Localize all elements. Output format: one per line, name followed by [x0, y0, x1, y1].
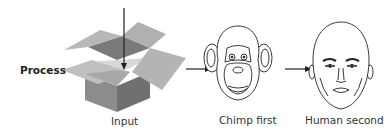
human-face-icon [309, 22, 373, 109]
chimp-face-icon [204, 26, 272, 100]
chimp-first-label: Chimp first [219, 114, 277, 126]
right-arrow-icon [285, 66, 312, 72]
human-second-label: Human second [305, 114, 384, 126]
process-label: Process [20, 64, 66, 76]
input-label: Input [111, 115, 138, 127]
